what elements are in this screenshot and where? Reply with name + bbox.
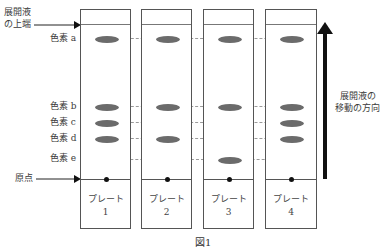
plate-number: 1 <box>81 206 130 218</box>
solvent-front-line <box>142 24 191 25</box>
spot-b <box>280 104 304 111</box>
spot-a <box>95 36 119 43</box>
solvent-front-label: 展開液 の上端 <box>4 6 31 30</box>
origin-arrow-icon <box>36 174 82 184</box>
spot-c <box>280 120 304 127</box>
solvent-front-arrow-icon <box>34 20 82 30</box>
solvent-front-label-line1: 展開液 <box>4 6 31 18</box>
plate-label: プレート <box>81 193 130 205</box>
solvent-front-line <box>266 24 316 25</box>
pigment-d-label: 色素 d <box>50 133 77 144</box>
plate-2: プレート 2 <box>141 9 192 229</box>
spot-b <box>218 104 242 111</box>
solvent-front-line <box>81 24 130 25</box>
spot-d <box>156 136 180 143</box>
spot-e <box>218 157 242 164</box>
plate-number: 4 <box>266 206 316 218</box>
plate-label: プレート <box>266 193 316 205</box>
solvent-direction-arrow-icon <box>316 22 334 182</box>
spot-a <box>280 36 304 43</box>
solvent-front-label-line2: の上端 <box>4 18 31 30</box>
origin-label: 原点 <box>15 173 33 184</box>
spot-c <box>95 120 119 127</box>
spot-b <box>95 104 119 111</box>
pigment-a-label: 色素 a <box>50 33 76 44</box>
pigment-c-label: 色素 c <box>50 117 76 128</box>
plate-4: プレート 4 <box>265 9 317 229</box>
spot-d <box>280 136 304 143</box>
plate-label: プレート <box>204 193 253 205</box>
solvent-front-line <box>204 24 253 25</box>
spot-d <box>95 136 119 143</box>
spot-b <box>156 104 180 111</box>
direction-label-line2: 移動の方向 <box>335 102 380 114</box>
origin-dot <box>104 177 109 182</box>
plate-3: プレート 3 <box>203 9 254 229</box>
figure-caption: 図1 <box>195 234 211 249</box>
direction-label: 展開液の 移動の方向 <box>335 90 380 114</box>
origin-dot <box>165 177 170 182</box>
origin-dot <box>227 177 232 182</box>
plate-label: プレート <box>142 193 191 205</box>
plate-number: 3 <box>204 206 253 218</box>
spot-a <box>156 36 180 43</box>
plate-1: プレート 1 <box>80 9 131 229</box>
origin-dot <box>289 177 294 182</box>
direction-label-line1: 展開液の <box>335 90 380 102</box>
spot-a <box>218 36 242 43</box>
pigment-b-label: 色素 b <box>50 101 77 112</box>
pigment-e-label: 色素 e <box>50 153 76 164</box>
plate-number: 2 <box>142 206 191 218</box>
